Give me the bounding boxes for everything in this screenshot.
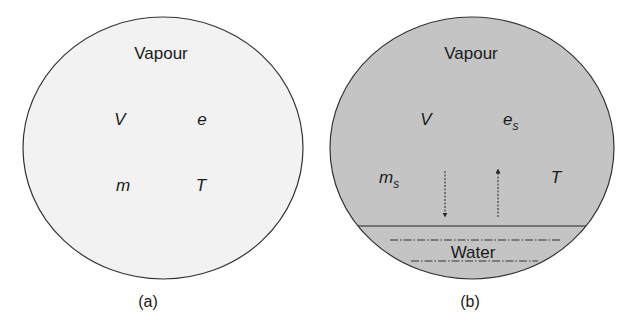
caption-b: (b) <box>460 293 480 310</box>
mass-var-a: m <box>116 176 130 195</box>
temperature-var-b: T <box>551 168 563 187</box>
panel-a: Vapour V e m T (a) <box>23 17 303 310</box>
vapour-label-b: Vapour <box>444 44 498 63</box>
figure-canvas: Vapour V e m T (a) Vapour V es ms T Wate… <box>0 0 632 334</box>
panel-b: Vapour V es ms T Water (b) <box>320 17 620 310</box>
volume-var-a: V <box>114 110 127 129</box>
caption-a: (a) <box>138 293 158 310</box>
vapour-label-a: Vapour <box>134 44 188 63</box>
water-label: Water <box>451 243 496 262</box>
vapour-pressure-var-a: e <box>197 110 206 129</box>
temperature-var-a: T <box>196 176 208 195</box>
volume-var-b: V <box>420 110 433 129</box>
